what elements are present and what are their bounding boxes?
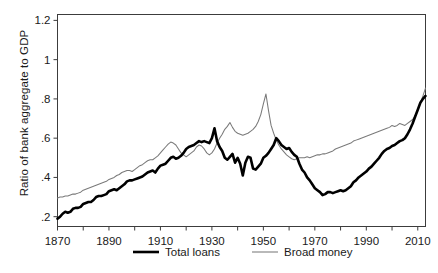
x-tick-label: 1910 <box>148 235 174 247</box>
chart-canvas: .2.4.6.811.2 187018901910193019501970199… <box>0 0 438 273</box>
y-tick-label: .8 <box>41 93 51 105</box>
chart-legend: Total loansBroad money <box>133 246 353 258</box>
x-tick-label: 1870 <box>45 235 71 247</box>
y-tick-label: 1.2 <box>35 14 51 26</box>
legend-label: Broad money <box>284 246 353 258</box>
x-tick-label: 2010 <box>405 235 431 247</box>
y-tick-label: .6 <box>41 132 51 144</box>
y-tick-label: 1 <box>44 54 50 66</box>
x-tick-label: 1930 <box>199 235 225 247</box>
chart-figure: Ratio of bank aggregate to GDP .2.4.6.81… <box>0 0 438 273</box>
axis-ticks <box>54 20 418 230</box>
y-tick-label: .4 <box>41 171 51 183</box>
x-tick-label: 1890 <box>96 235 122 247</box>
series-line-total-loans <box>58 96 426 219</box>
x-tick-label: 1970 <box>302 235 328 247</box>
legend-label: Total loans <box>165 246 220 258</box>
x-tick-label: 1990 <box>354 235 380 247</box>
x-tick-label: 1950 <box>251 235 277 247</box>
y-tick-label: .2 <box>41 211 51 223</box>
x-axis-tick-labels: 18701890191019301950197019902010 <box>45 235 431 247</box>
y-axis-tick-labels: .2.4.6.811.2 <box>35 14 52 222</box>
plot-frame <box>58 15 426 227</box>
series-line-broad-money <box>58 88 426 198</box>
